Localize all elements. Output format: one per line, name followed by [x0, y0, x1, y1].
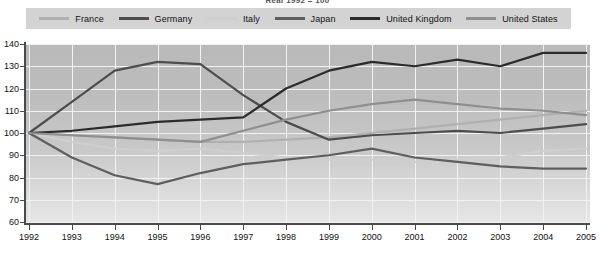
x-axis-label: 2004 [523, 233, 563, 242]
y-axis-label: 100 [0, 129, 19, 138]
x-axis-label: 1993 [52, 233, 92, 242]
y-axis-label: 80 [0, 174, 19, 183]
x-axis-tick [200, 225, 201, 230]
x-axis-tick [372, 225, 373, 230]
x-axis-tick [500, 225, 501, 230]
legend-item-united-states[interactable]: United States [466, 14, 557, 24]
legend-item-france[interactable]: France [39, 14, 104, 24]
x-axis-label: 1996 [180, 233, 220, 242]
x-axis-tick [329, 225, 330, 230]
plot-area [25, 44, 590, 222]
x-axis-label: 1994 [95, 233, 135, 242]
series-line-united-states [29, 100, 586, 142]
x-axis-tick [543, 225, 544, 230]
x-axis-tick [72, 225, 73, 230]
legend-swatch-icon [39, 17, 69, 20]
legend-label: Japan [311, 14, 336, 24]
x-axis-label: 2000 [352, 233, 392, 242]
y-axis-label: 110 [0, 107, 19, 116]
y-axis-label: 70 [0, 196, 19, 205]
series-lines [25, 44, 590, 222]
series-line-united-kingdom [29, 53, 586, 133]
x-axis-line [24, 223, 590, 225]
x-axis-tick [457, 225, 458, 230]
legend-label: United Kingdom [386, 14, 451, 24]
chart-legend: FranceGermanyItalyJapanUnited KingdomUni… [26, 8, 571, 29]
legend-label: Italy [243, 14, 260, 24]
legend-label: France [75, 14, 104, 24]
x-axis-label: 1998 [266, 233, 306, 242]
x-axis-tick [586, 225, 587, 230]
y-axis-tick [20, 200, 25, 201]
legend-swatch-icon [466, 17, 496, 20]
legend-item-japan[interactable]: Japan [275, 14, 336, 24]
y-axis-tick [20, 222, 25, 223]
y-axis-tick [20, 178, 25, 179]
legend-swatch-icon [119, 17, 149, 20]
y-axis-tick [20, 66, 25, 67]
legend-item-germany[interactable]: Germany [119, 14, 193, 24]
legend-item-united-kingdom[interactable]: United Kingdom [350, 14, 451, 24]
legend-label: Germany [155, 14, 193, 24]
y-axis-tick [20, 155, 25, 156]
y-axis-label: 120 [0, 85, 19, 94]
y-axis-label: 60 [0, 218, 19, 227]
x-axis-label: 2002 [437, 233, 477, 242]
y-axis-label: 90 [0, 151, 19, 160]
y-axis-tick [20, 44, 25, 45]
x-axis-label: 1995 [138, 233, 178, 242]
x-axis-label: 1992 [9, 233, 49, 242]
y-axis-tick [20, 111, 25, 112]
legend-swatch-icon [350, 17, 380, 20]
x-axis-label: 2003 [480, 233, 520, 242]
x-axis-tick [286, 225, 287, 230]
chart-title: Real 1992 = 100 [0, 0, 595, 3]
x-axis-label: 2001 [395, 233, 435, 242]
legend-label: United States [502, 14, 557, 24]
x-axis-tick [115, 225, 116, 230]
legend-swatch-icon [275, 17, 305, 20]
x-axis-tick [29, 225, 30, 230]
x-axis-label: 1999 [309, 233, 349, 242]
y-axis-tick [20, 89, 25, 90]
y-axis-tick [20, 133, 25, 134]
legend-swatch-icon [207, 17, 237, 20]
y-axis-label: 130 [0, 62, 19, 71]
x-axis-tick [158, 225, 159, 230]
x-axis-tick [415, 225, 416, 230]
x-axis-label: 1997 [223, 233, 263, 242]
y-axis-label: 140 [0, 40, 19, 49]
series-line-germany [29, 62, 586, 140]
legend-item-italy[interactable]: Italy [207, 14, 260, 24]
x-axis-tick [243, 225, 244, 230]
x-axis-label: 2005 [566, 233, 601, 242]
